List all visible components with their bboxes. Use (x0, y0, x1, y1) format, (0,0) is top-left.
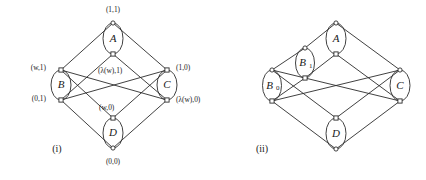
lattice-vertex (111, 52, 115, 56)
lattice-vertex (398, 99, 402, 103)
figure-container: ABCD(1,1)(w,1)(0,1)(λ(w),1)(w,0)(1,0)(λ(… (0, 0, 426, 180)
lattice-vertex (334, 116, 338, 120)
coordinate-label: (w,1) (31, 63, 47, 72)
lattice-vertex (111, 116, 115, 120)
lens-label: D (331, 127, 340, 139)
lattice-vertex (165, 68, 169, 72)
lattice-vertex (303, 76, 307, 80)
lattice-vertex (59, 68, 63, 72)
lens-node-c: C (390, 70, 410, 101)
lens-label: A (109, 32, 117, 44)
coordinate-label: (0,0) (106, 157, 121, 166)
coordinate-label: (λ(w),0) (176, 95, 201, 104)
lattice-vertex (111, 146, 115, 150)
lattice-vertex (334, 147, 338, 151)
lens-node-d: D (326, 118, 346, 149)
lens-node-a: A (103, 23, 123, 54)
lattice-vertex (59, 98, 63, 102)
lens-node-a: A (326, 23, 346, 54)
lens-label: C (396, 79, 404, 91)
diagram-i: ABCD(1,1)(w,1)(0,1)(λ(w),1)(w,0)(1,0)(λ(… (31, 5, 201, 166)
lens-node-b0: B0 (263, 70, 282, 101)
diagram-i-caption: (i) (52, 143, 61, 155)
lens-node-d: D (103, 118, 123, 148)
lattice-diagram-figure: ABCD(1,1)(w,1)(0,1)(λ(w),1)(w,0)(1,0)(λ(… (0, 0, 426, 180)
lattice-edge (336, 23, 400, 70)
diagram-ii: AB1B0CD(ii) (256, 21, 410, 155)
lattice-edge (61, 23, 113, 70)
coordinate-label: (1,0) (176, 63, 191, 72)
diagram-i-lenses: ABCD (51, 23, 177, 148)
lattice-edge (336, 101, 400, 149)
diagram-ii-caption: (ii) (256, 143, 268, 155)
lens-node-b: B (51, 70, 71, 100)
lens-label: D (108, 126, 117, 138)
lens-label: B (58, 78, 65, 90)
lattice-vertex (270, 99, 274, 103)
lens-node-b1: B1 (296, 48, 315, 78)
coordinate-label: (λ(w),1) (98, 66, 123, 75)
coordinate-label: (w,0) (99, 103, 115, 112)
coordinate-label: (0,1) (32, 94, 47, 103)
lattice-edge (272, 101, 336, 149)
coordinate-label: (1,1) (106, 5, 121, 14)
lattice-vertex (303, 46, 307, 50)
lattice-vertex (270, 68, 274, 72)
lens-label-subscript: 0 (276, 84, 280, 92)
lattice-vertex (165, 98, 169, 102)
lattice-vertex (398, 68, 402, 72)
lens-label: C (163, 78, 171, 90)
lens-label: B (266, 79, 273, 91)
lens-node-c: C (157, 70, 177, 100)
lattice-vertex (111, 21, 115, 25)
lattice-vertex (334, 52, 338, 56)
lens-label: B (299, 56, 306, 68)
lens-label: A (332, 32, 340, 44)
lattice-vertex (334, 21, 338, 25)
lens-label-subscript: 1 (309, 62, 313, 70)
lattice-edge (305, 23, 336, 48)
